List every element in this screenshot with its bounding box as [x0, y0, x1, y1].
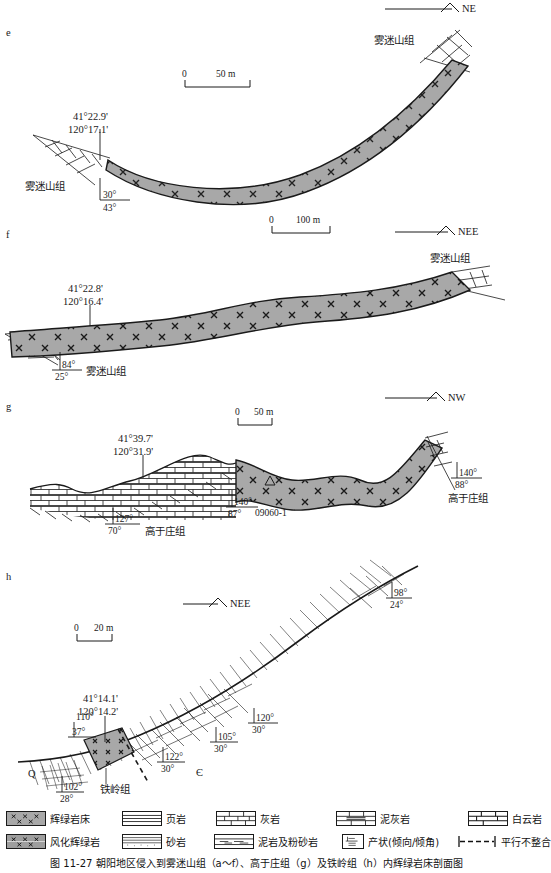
unit-label-f-left: 雾迷山组	[86, 365, 127, 377]
attitude-dipdir-e-1: 30°	[103, 190, 117, 200]
legend-label-marl: 泥灰岩	[380, 811, 410, 826]
dashed-swatch-icon	[457, 834, 497, 849]
scale-bar-panel-e: 0 50 m	[182, 69, 250, 87]
period-label-cambrian-h: Є	[196, 767, 203, 778]
brick-band-h	[128, 684, 252, 766]
unit-label-g-right: 高于庄组	[448, 492, 489, 504]
period-label-q-h: Q	[28, 768, 36, 779]
unit-label-h: 铁岭组	[100, 783, 131, 795]
weathered-diabase-swatch-icon	[6, 834, 46, 849]
legend-label-mudstone-siltstone: 泥岩及粉砂岩	[258, 834, 318, 849]
compass-label-h: NEE	[230, 598, 250, 609]
scale-zero-h: 0	[74, 623, 79, 633]
attitude-dip-h-2: 28°	[60, 794, 74, 804]
panel-letter-g: g	[6, 401, 12, 412]
sandstone-swatch-icon	[122, 834, 162, 849]
coord-lat-g: 41°39.7'	[118, 433, 153, 444]
scale-value-g: 50 m	[254, 407, 274, 417]
attitude-dip-h-6: 24°	[390, 600, 404, 610]
figure-caption: 图 11-27 朝阳地区侵入到雾迷山组（a～f）、高于庄组（g）及铁岭组（h）内…	[0, 855, 513, 870]
panel-letter-h: h	[6, 571, 12, 582]
dolomite-swatch-icon	[468, 811, 508, 826]
strata-hatch-h	[30, 560, 391, 785]
panel-e: e NE 0 50 m	[6, 3, 476, 213]
legend-label-sandstone: 砂岩	[166, 834, 186, 849]
host-rock-left-panel-e	[33, 135, 110, 185]
legend-item-mudstone-siltstone: 泥岩及粉砂岩	[214, 831, 318, 851]
coord-lat-h: 41°14.1'	[83, 693, 118, 704]
attitude-dip-h-3: 30°	[161, 764, 175, 774]
legend-item-dolomite: 白云岩	[468, 808, 542, 828]
sample-id-g: 09060-1	[255, 508, 287, 518]
unit-label-g-left: 高于庄组	[145, 525, 186, 537]
diabase-swatch-icon	[6, 811, 46, 826]
scale-zero-f: 0	[269, 215, 274, 225]
legend-label-diabase-sill: 辉绿岩床	[50, 811, 90, 826]
attitude-dipdir-g-1: 127°	[115, 514, 133, 524]
legend-label-parallel-unconformity: 平行不整合	[501, 834, 551, 849]
legend-label-limestone: 灰岩	[260, 811, 280, 826]
panel-g: g NW 0 50 m	[6, 392, 489, 537]
unit-label-f-right: 雾迷山组	[430, 252, 471, 264]
attitude-dip-h-1: 37°	[72, 727, 86, 737]
attitude-swatch-icon	[342, 834, 364, 849]
limestone-swatch-icon	[216, 811, 256, 826]
panel-h: h NEE 0 20 m	[6, 560, 418, 804]
compass-nw-panel-g: NW	[385, 392, 466, 403]
legend-item-weathered-diabase: 风化辉绿岩	[6, 831, 100, 851]
legend-label-dolomite: 白云岩	[512, 811, 542, 826]
marl-swatch-icon	[336, 811, 376, 826]
legend-row-2: 风化辉绿岩 砂岩	[6, 831, 511, 851]
coord-lon-e: 120°17.1'	[68, 124, 108, 135]
attitude-dipdir-h-2: 102°	[64, 782, 82, 792]
scale-zero-g: 0	[235, 407, 240, 417]
legend-label-shale: 页岩	[166, 811, 186, 826]
legend-item-limestone: 灰岩	[216, 808, 280, 828]
coord-lat-f: 41°22.8'	[68, 283, 103, 294]
attitude-dip-f-1: 25°	[55, 372, 69, 382]
shale-swatch-icon	[122, 811, 162, 826]
attitude-dipdir-g-3: 140°	[459, 468, 477, 478]
panel-letter-f: f	[6, 229, 10, 240]
legend-item-marl: 泥灰岩	[336, 808, 410, 828]
scale-value-e: 50 m	[216, 69, 236, 79]
attitude-dipdir-g-2: 140°	[234, 497, 252, 507]
compass-label-g: NW	[448, 392, 466, 403]
attitude-dipdir-h-1: 110°	[76, 712, 94, 722]
legend-item-sandstone: 砂岩	[122, 831, 186, 851]
attitude-dipdir-h-6: 98°	[394, 588, 408, 598]
attitude-dip-h-4: 30°	[214, 744, 228, 754]
scale-bar-panel-g: 0 50 m	[235, 407, 274, 425]
unit-label-e-left: 雾迷山组	[25, 180, 66, 192]
coord-lon-f: 120°16.4'	[63, 296, 103, 307]
unit-label-e-right: 雾迷山组	[374, 34, 415, 46]
mudstone-swatch-icon	[214, 834, 254, 849]
compass-nee-panel-f: NEE	[395, 226, 478, 237]
legend-item-attitude: 产状(倾向/倾角)	[342, 831, 439, 851]
scale-zero-e: 0	[182, 69, 187, 79]
attitude-dip-g-1: 70°	[108, 526, 122, 536]
attitude-dip-e-1: 43°	[103, 203, 117, 213]
attitude-dip-g-3: 88°	[455, 480, 469, 490]
legend-item-shale: 页岩	[122, 808, 186, 828]
attitude-dipdir-h-3: 122°	[165, 752, 183, 762]
panel-f: f NEE 0 100 m	[5, 215, 505, 382]
compass-nee-panel-h: NEE	[183, 598, 250, 609]
attitude-dip-g-2: 87°	[228, 509, 242, 519]
attitude-dipdir-f-1: 84°	[62, 360, 76, 370]
attitude-dipdir-h-5: 120°	[256, 713, 274, 723]
scale-value-f: 100 m	[296, 215, 321, 225]
attitude-dip-h-5: 30°	[252, 725, 266, 735]
attitude-dipdir-h-4: 105°	[218, 732, 236, 742]
legend-row-1: 辉绿岩床 页岩	[6, 808, 511, 828]
scale-value-h: 20 m	[94, 623, 114, 633]
compass-label-f: NEE	[458, 226, 478, 237]
legend-label-attitude: 产状(倾向/倾角)	[368, 834, 439, 849]
legend-label-weathered-diabase: 风化辉绿岩	[50, 834, 100, 849]
scale-bar-panel-f: 0 100 m	[269, 215, 330, 233]
legend: 辉绿岩床 页岩	[0, 806, 513, 854]
legend-item-parallel-unconformity: 平行不整合	[457, 831, 551, 851]
scale-bar-panel-h: 0 20 m	[74, 623, 114, 641]
